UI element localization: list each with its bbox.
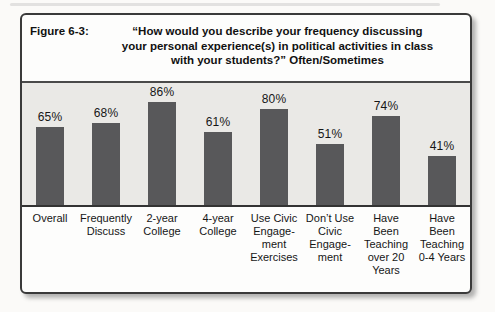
bar-column: 41% bbox=[414, 83, 470, 205]
category-label: Frequently Discuss bbox=[78, 212, 134, 277]
category-label: Have Been Teaching 0-4 Years bbox=[414, 212, 470, 277]
plot-area: 65% 68% 86% 61% 80% 51% bbox=[22, 83, 470, 207]
bar bbox=[316, 144, 344, 205]
bar-value-label: 86% bbox=[150, 85, 175, 99]
bar-column: 61% bbox=[190, 83, 246, 205]
bar-column: 74% bbox=[358, 83, 414, 205]
category-label: Overall bbox=[22, 212, 78, 277]
category-label: Have Been Teaching over 20 Years bbox=[358, 212, 414, 277]
figure-label: Figure 6-3: bbox=[30, 24, 95, 39]
bar bbox=[260, 109, 288, 205]
bar bbox=[92, 123, 120, 205]
figure-panel: Figure 6-3: “How would you describe your… bbox=[20, 13, 472, 294]
bar-column: 68% bbox=[78, 83, 134, 205]
bar bbox=[36, 127, 64, 205]
category-label: 4-year College bbox=[190, 212, 246, 277]
scan-artifact bbox=[10, 3, 440, 6]
bar-value-label: 65% bbox=[38, 110, 63, 124]
figure-title: “How would you describe your frequency d… bbox=[95, 24, 460, 68]
bar-value-label: 68% bbox=[94, 106, 119, 120]
bar bbox=[204, 132, 232, 205]
bar-value-label: 61% bbox=[206, 115, 231, 129]
bar-column: 80% bbox=[246, 83, 302, 205]
page-background: Figure 6-3: “How would you describe your… bbox=[0, 0, 495, 312]
bar bbox=[372, 116, 400, 205]
bar-value-label: 80% bbox=[262, 92, 287, 106]
bar bbox=[148, 102, 176, 205]
bar-column: 51% bbox=[302, 83, 358, 205]
bar bbox=[428, 156, 456, 205]
bar-column: 65% bbox=[22, 83, 78, 205]
bar-column: 86% bbox=[134, 83, 190, 205]
category-label: Use Civic Engage- ment Exercises bbox=[246, 212, 302, 277]
figure-title-row: Figure 6-3: “How would you describe your… bbox=[22, 15, 470, 83]
bar-value-label: 74% bbox=[374, 99, 399, 113]
category-labels-row: Overall Frequently Discuss 2-year Colleg… bbox=[22, 207, 470, 277]
category-label: 2-year College bbox=[134, 212, 190, 277]
bar-value-label: 41% bbox=[430, 139, 455, 153]
category-label: Don’t Use Civic Engage- ment bbox=[302, 212, 358, 277]
bar-value-label: 51% bbox=[318, 127, 343, 141]
